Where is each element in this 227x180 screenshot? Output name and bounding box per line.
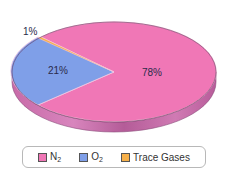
legend: N2 O2 Trace Gases bbox=[22, 146, 206, 168]
legend-swatch-n2 bbox=[38, 153, 47, 162]
legend-label-n2: N2 bbox=[50, 151, 61, 163]
legend-item-trace-gases: Trace Gases bbox=[121, 152, 190, 163]
legend-swatch-trace-gases bbox=[121, 153, 130, 162]
pie-chart bbox=[0, 0, 227, 145]
legend-swatch-o2 bbox=[79, 153, 88, 162]
legend-label-o2: O2 bbox=[91, 151, 103, 163]
slice-label-trace: 1% bbox=[23, 26, 37, 37]
legend-item-n2: N2 bbox=[38, 151, 61, 163]
legend-item-o2: O2 bbox=[79, 151, 103, 163]
slice-label-n2: 78% bbox=[142, 67, 162, 78]
legend-label-trace-gases: Trace Gases bbox=[133, 152, 190, 163]
slice-label-o2: 21% bbox=[48, 65, 68, 76]
